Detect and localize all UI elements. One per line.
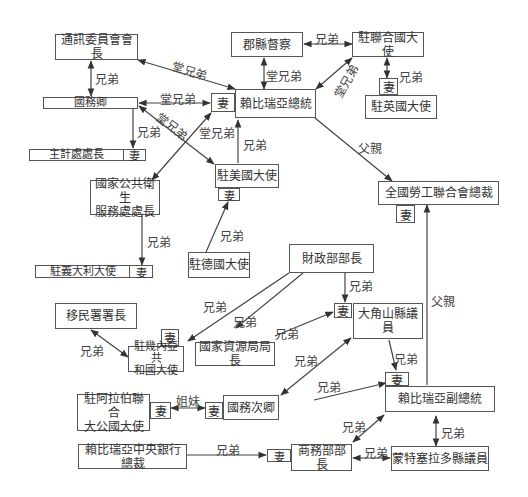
node-secretary-of-state: 國務卿 — [43, 97, 138, 109]
wife-commerce-minister: 妻 — [267, 449, 291, 462]
node-vice-president: 賴比瑞亞副總統 — [385, 386, 495, 412]
node-guinea-ambassador: 駐幾內亞共 和國大使 — [128, 346, 184, 372]
label-brothers-13: 兄弟 — [294, 352, 318, 369]
node-president: 賴比瑞亞總統 — [235, 89, 316, 118]
node-commerce-minister: 商務部部長 — [291, 444, 352, 471]
wife-comptroller: 妻 — [123, 149, 146, 161]
node-finance-minister: 財政部部長 — [289, 244, 374, 273]
node-uae-ambassador: 駐阿拉伯聯合 大公國大使 — [77, 394, 150, 431]
node-us-ambassador: 駐美國大使 — [215, 164, 279, 188]
wife-labor-congress-president: 妻 — [396, 205, 415, 223]
node-germany-ambassador: 駐德國大使 — [188, 252, 250, 278]
wife-deputy-foreign-minister: 妻 — [205, 402, 223, 419]
label-father-1: 父親 — [358, 139, 382, 156]
label-sisters: 姐妹 — [176, 392, 200, 409]
label-brothers-5: 兄弟 — [243, 136, 267, 153]
label-brothers-4: 兄弟 — [137, 123, 161, 140]
node-public-health-director: 國家公共衛生 服務處處長 — [90, 180, 160, 215]
label-brothers-9: 兄弟 — [203, 298, 227, 315]
label-brothers-16: 兄弟 — [342, 418, 366, 435]
wife-president: 妻 — [211, 93, 235, 112]
label-brothers-18: 兄弟 — [216, 441, 240, 458]
label-brothers-19: 兄弟 — [364, 444, 388, 461]
node-central-bank-governor: 賴比瑞亞中央銀行總裁 — [78, 444, 187, 469]
label-brothers-14: 兄弟 — [394, 350, 418, 367]
label-brothers-1: 兄弟 — [95, 70, 119, 87]
node-un-ambassador: 駐聯合國大使 — [352, 32, 424, 57]
node-deputy-foreign-minister: 國務次卿 — [223, 395, 279, 420]
node-labor-congress-president: 全國勞工聯合會總裁 — [378, 181, 499, 205]
node-county-inspector: 郡縣督察 — [231, 32, 303, 57]
label-cousins-4: 堂兄弟 — [160, 90, 196, 107]
label-brothers-15: 兄弟 — [317, 378, 341, 395]
wife-vice-president: 妻 — [385, 372, 409, 386]
label-brothers-2: 兄弟 — [315, 30, 339, 47]
node-comptroller: 主計處處長 — [29, 149, 124, 161]
label-brothers-7: 兄弟 — [220, 227, 244, 244]
label-brothers-6: 兄弟 — [147, 233, 171, 250]
label-cousins-2: 堂兄弟 — [266, 67, 302, 84]
label-brothers-17: 兄弟 — [441, 424, 465, 441]
node-immigration-commissioner: 移民署署長 — [55, 303, 137, 329]
label-brothers-8: 兄弟 — [349, 277, 373, 294]
node-uk-ambassador: 駐英國大使 — [365, 95, 437, 119]
wife-us-ambassador: 妻 — [218, 188, 240, 201]
node-natural-resources-director: 國家資源局局長 — [195, 342, 275, 366]
label-father-2: 父親 — [431, 292, 455, 309]
label-brothers-10: 兄弟 — [233, 313, 257, 330]
label-brothers-3: 兄弟 — [399, 68, 423, 85]
wife-uae-ambassador: 妻 — [150, 402, 171, 419]
wife-grand-cape-mount-senator: 妻 — [334, 303, 352, 318]
wife-uk-ambassador: 妻 — [379, 78, 398, 95]
node-grand-cape-mount-senator: 大角山縣議員 — [353, 303, 423, 339]
node-italy-ambassador: 駐義大利大使 — [35, 265, 130, 278]
node-montserrado-senator: 蒙特塞拉多縣議員 — [391, 446, 489, 471]
label-cousins-6: 堂兄弟 — [199, 124, 235, 141]
node-communications-commission-chair: 通訊委員會會長 — [55, 34, 138, 60]
relationship-diagram: 通訊委員會會長 郡縣督察 駐聯合國大使 妻 駐英國大使 國務卿 妻 賴比瑞亞總統… — [0, 0, 528, 497]
wife-italy-ambassador: 妻 — [129, 265, 153, 278]
label-brothers-11: 兄弟 — [275, 325, 299, 342]
label-brothers-12: 兄弟 — [80, 342, 104, 359]
